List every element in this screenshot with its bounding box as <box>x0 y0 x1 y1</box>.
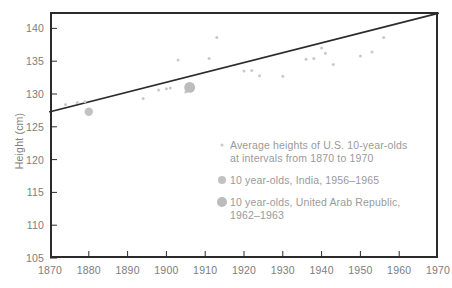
data-point <box>320 47 323 50</box>
data-point <box>169 87 172 90</box>
data-point <box>305 58 308 61</box>
legend-item-united-arab-republic: 10 year-olds, United Arab Republic, 1962… <box>214 196 438 222</box>
data-point <box>142 97 145 100</box>
data-point <box>215 36 218 39</box>
data-point <box>312 57 315 60</box>
series-india <box>85 108 93 116</box>
x-tick-label: 1950 <box>348 264 372 276</box>
legend-label: Average heights of U.S. 10-year-olds at … <box>230 139 407 165</box>
small-dot-marker-icon <box>214 139 230 152</box>
x-tick-label: 1900 <box>154 264 178 276</box>
medium-circle-marker-icon <box>214 174 230 187</box>
y-tick-label: 115 <box>4 186 44 198</box>
x-tick-label: 1910 <box>193 264 217 276</box>
data-point <box>359 54 362 57</box>
x-tick-label: 1920 <box>232 264 256 276</box>
large-circle-marker-icon <box>214 196 230 209</box>
legend-label: 10 year-olds, India, 1956–1965 <box>230 174 379 187</box>
x-tick-label: 1940 <box>310 264 334 276</box>
data-point <box>324 52 327 55</box>
y-axis-title: Height (cm) <box>13 96 25 186</box>
y-tick-label: 135 <box>4 55 44 67</box>
y-tick-label: 110 <box>4 219 44 231</box>
data-point <box>76 101 79 104</box>
data-point <box>258 74 261 77</box>
data-point <box>332 63 335 66</box>
legend-label: 10 year-olds, United Arab Republic, 1962… <box>230 196 400 222</box>
data-point <box>208 57 211 60</box>
x-tick-label: 1970 <box>426 264 450 276</box>
data-point <box>157 89 160 92</box>
x-axis-ticks <box>89 251 399 258</box>
legend-item-us-average-heights: Average heights of U.S. 10-year-olds at … <box>214 139 438 165</box>
data-point <box>83 100 86 103</box>
data-point <box>281 75 284 78</box>
y-axis-ticks <box>50 28 57 258</box>
data-point <box>243 70 246 73</box>
x-tick-label: 1930 <box>271 264 295 276</box>
trend-line <box>50 13 438 111</box>
data-point <box>382 36 385 39</box>
legend-item-india: 10 year-olds, India, 1956–1965 <box>214 174 438 187</box>
data-point <box>64 103 67 106</box>
chart-legend: Average heights of U.S. 10-year-olds at … <box>214 139 438 231</box>
y-tick-label: 105 <box>4 252 44 264</box>
data-point <box>165 87 168 90</box>
x-tick-label: 1880 <box>77 264 101 276</box>
x-axis-tick-labels: 1870188018901900191019201930194019501960… <box>0 264 452 282</box>
x-tick-label: 1890 <box>116 264 140 276</box>
series-united-arab-republic <box>184 82 195 93</box>
x-tick-label: 1870 <box>38 264 62 276</box>
chart-figure: 105110115120125130135140 187018801890190… <box>0 0 452 288</box>
data-point <box>85 108 93 116</box>
data-point <box>184 82 195 93</box>
x-tick-label: 1960 <box>387 264 411 276</box>
data-point <box>371 51 374 54</box>
data-point <box>177 58 180 61</box>
y-tick-label: 140 <box>4 22 44 34</box>
data-point <box>250 69 253 72</box>
